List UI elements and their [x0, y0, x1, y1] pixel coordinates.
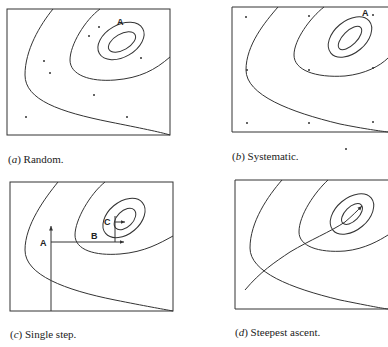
- step-label-a: A: [40, 238, 47, 248]
- middle-contour: [294, 7, 388, 76]
- caption-b: (b) Systematic.: [232, 150, 299, 163]
- panel-d-steepest-ascent: (d) Steepest ascent.: [235, 180, 388, 339]
- middle-contour: [299, 180, 388, 251]
- random-sample-points: [25, 26, 142, 118]
- panel-b-frame: [232, 7, 388, 132]
- panel-a-frame: [7, 9, 170, 135]
- single-step-path: [51, 216, 125, 311]
- step-label-c: C: [104, 217, 111, 227]
- grid-sample-points: [245, 14, 374, 150]
- caption-d: (d) Steepest ascent.: [235, 326, 320, 339]
- outer-contour: [246, 7, 388, 132]
- caption-a: (a) Random.: [8, 153, 64, 166]
- outer-contour: [250, 180, 388, 309]
- panel-c-single-step: A B C (c) Single step.: [10, 182, 173, 341]
- panel-b-systematic: A (b) Systematic.: [232, 7, 388, 163]
- middle-contour: [75, 182, 173, 254]
- inner-contour: [321, 9, 380, 66]
- steepest-ascent-path: [245, 206, 362, 290]
- optimum-label-a: A: [117, 17, 124, 27]
- panel-c-frame: [10, 182, 173, 311]
- inner-contour: [323, 186, 382, 243]
- optimum-label-b: A: [362, 8, 369, 18]
- panel-a-random: A (a) Random.: [7, 9, 170, 166]
- step-label-b: B: [91, 231, 98, 241]
- figure-canvas: A (a) Random. A (b) Systematic.: [0, 0, 388, 347]
- caption-c: (c) Single step.: [10, 328, 77, 341]
